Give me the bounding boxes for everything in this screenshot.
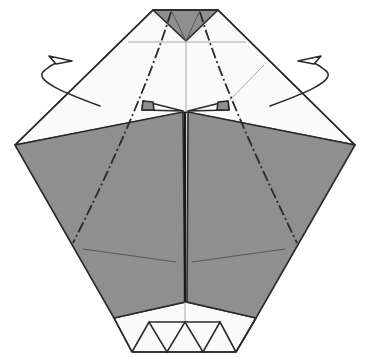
arrowhead-left-icon	[49, 56, 72, 64]
gray-body-left	[15, 112, 185, 318]
small-triangle-right	[217, 101, 229, 110]
small-triangle-left	[142, 101, 154, 110]
gray-body-right	[187, 112, 355, 318]
origami-diagram	[0, 0, 370, 357]
arrowhead-right-icon	[298, 56, 321, 64]
